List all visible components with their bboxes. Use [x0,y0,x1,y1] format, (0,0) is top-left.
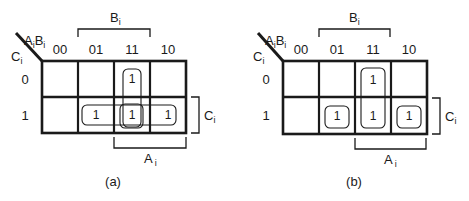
kmap-cell: 1 [165,108,172,122]
col-header: 10 [402,42,416,57]
bracket-top-label: Bi [110,10,121,27]
col-header: 10 [161,42,175,57]
bracket-bottom [355,138,426,149]
col-header: 00 [53,42,67,57]
kmap-cell: 1 [370,109,377,123]
col-header: 11 [366,42,380,57]
bracket-top [319,29,390,37]
bracket-bottom-label: Ai [144,151,157,168]
kmap-cell: 1 [129,108,136,122]
kmap-cell: 1 [129,72,136,86]
col-header: 01 [330,42,344,57]
row-var-label: Ci [11,49,22,66]
kmap-b: AiBi Ci 00 01 11 10 0 1 Bi 1 1 1 1 Ci Ai… [253,10,456,189]
col-var-a-label: AiBi [265,33,286,50]
bracket-right-label: Ci [445,109,456,126]
kmap-figure: AiBi Ci 00 01 11 10 0 1 Bi 1 1 1 1 C [0,0,469,201]
col-header: 00 [294,42,308,57]
bracket-bottom [114,137,186,148]
col-header: 01 [89,42,103,57]
kmap-a: AiBi Ci 00 01 11 10 0 1 Bi 1 1 1 1 C [11,10,215,189]
kmap-cell: 1 [406,109,413,123]
caption: (b) [346,174,362,189]
bracket-top-label: Bi [349,10,360,27]
row-header: 1 [21,108,28,123]
row-header: 0 [21,72,28,87]
col-header: 11 [125,42,139,57]
bracket-right [432,98,440,134]
kmap-cell: 1 [370,73,377,87]
bracket-right-label: Ci [204,108,215,125]
bracket-bottom-label: Ai [384,152,397,169]
row-header: 1 [262,108,269,123]
bracket-right [191,97,199,133]
kmap-cell: 1 [93,108,100,122]
row-var-label: Ci [253,49,264,66]
kmap-cell: 1 [334,109,341,123]
caption: (a) [105,174,121,189]
bracket-top [78,29,150,37]
col-var-a-label: AiBi [24,33,45,50]
row-header: 0 [262,72,269,87]
